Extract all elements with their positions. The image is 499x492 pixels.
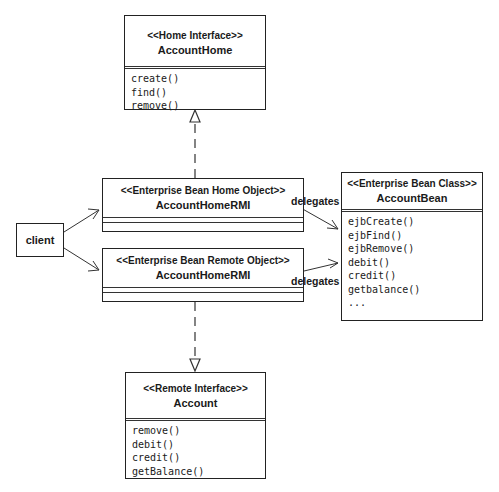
attributes-divider <box>103 287 303 293</box>
delegates-label-top: delegates <box>291 195 339 207</box>
stereotype-label: <<Enterprise Bean Home Object>> <box>103 184 303 198</box>
client-node: client <box>16 223 64 257</box>
class-bean: <<Enterprise Bean Class>> AccountBean ej… <box>341 172 483 321</box>
operation: ... <box>348 296 476 310</box>
operation: ejbCreate() <box>348 215 476 229</box>
delegates-label-bottom: delegates <box>291 275 339 287</box>
operations-list: create() find() remove() <box>125 69 265 115</box>
class-name: AccountBean <box>342 191 482 205</box>
class-name: AccountHome <box>125 43 265 57</box>
client-label: client <box>26 234 55 246</box>
operation: find() <box>131 86 259 100</box>
operations-list: ejbCreate() ejbFind() ejbRemove() debit(… <box>342 212 482 312</box>
class-remote-interface: <<Remote Interface>> Account remove() de… <box>125 372 266 479</box>
client-to-remote-arrow <box>64 248 99 270</box>
stereotype-label: <<Home Interface>> <box>125 29 265 43</box>
arrowhead-icon <box>328 259 338 268</box>
operation: create() <box>131 72 259 86</box>
stereotype-label: <<Enterprise Bean Class>> <box>342 177 482 191</box>
class-name: AccountHomeRMI <box>103 268 303 282</box>
class-name: Account <box>126 396 265 410</box>
delegates-line-bottom <box>304 263 338 271</box>
class-home-object: <<Enterprise Bean Home Object>> AccountH… <box>102 178 304 232</box>
operation: ejbFind() <box>348 229 476 243</box>
operation: getbalance() <box>348 283 476 297</box>
operation: credit() <box>132 451 259 465</box>
operation: ejbRemove() <box>348 242 476 256</box>
client-to-home-arrow <box>64 210 99 232</box>
class-home-interface: <<Home Interface>> AccountHome create() … <box>124 15 266 110</box>
class-name: AccountHomeRMI <box>103 198 303 212</box>
operation: getBalance() <box>132 465 259 479</box>
operation: debit() <box>132 438 259 452</box>
operation: remove() <box>131 99 259 113</box>
hollow-triangle-icon <box>190 359 200 371</box>
operation: remove() <box>132 424 259 438</box>
operation: debit() <box>348 256 476 270</box>
class-remote-object: <<Enterprise Bean Remote Object>> Accoun… <box>102 248 304 302</box>
stereotype-label: <<Enterprise Bean Remote Object>> <box>103 254 303 268</box>
operations-list: remove() debit() credit() getBalance() <box>126 421 265 480</box>
operation: credit() <box>348 269 476 283</box>
stereotype-label: <<Remote Interface>> <box>126 382 265 396</box>
attributes-divider <box>103 217 303 223</box>
